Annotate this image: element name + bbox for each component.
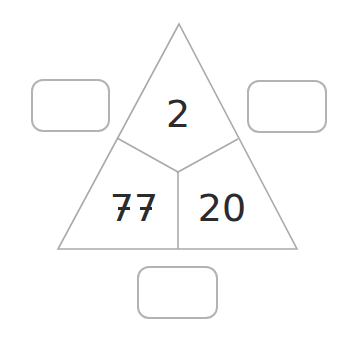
- number-triangle-diagram: 2 77 20: [0, 0, 342, 337]
- bottom-left-number: 77: [108, 189, 160, 227]
- seven-crossbar-1: [118, 207, 130, 210]
- answer-box-bottom[interactable]: [137, 266, 218, 319]
- seven-crossbar-2: [140, 207, 152, 210]
- top-number: 2: [158, 95, 198, 133]
- answer-box-right[interactable]: [247, 80, 327, 133]
- bottom-right-number: 20: [196, 189, 248, 227]
- answer-box-left[interactable]: [31, 79, 110, 132]
